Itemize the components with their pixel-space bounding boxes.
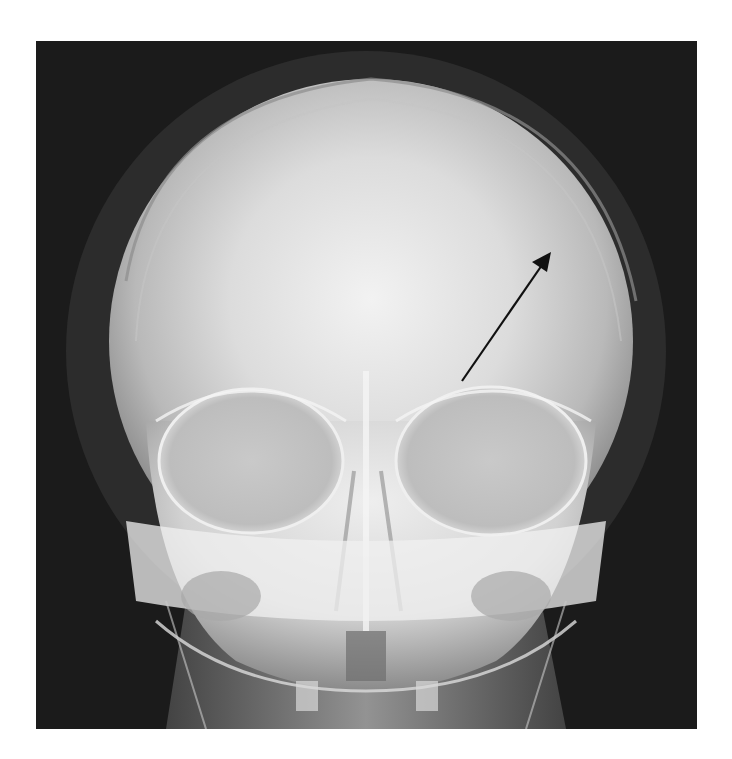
annotation-arrow-icon	[36, 41, 697, 729]
xray-image	[36, 41, 697, 729]
